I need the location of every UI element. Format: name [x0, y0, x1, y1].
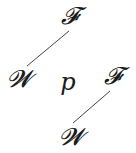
- edge-top-left: [27, 31, 69, 66]
- node-center-p: p: [60, 70, 75, 94]
- node-right-F: 𝓕: [104, 64, 122, 88]
- node-top-F: 𝓕: [61, 4, 79, 28]
- node-left-W: 𝓦: [7, 67, 32, 91]
- node-bottom-W: 𝓦: [59, 125, 84, 149]
- edge-right-bottom: [73, 91, 110, 123]
